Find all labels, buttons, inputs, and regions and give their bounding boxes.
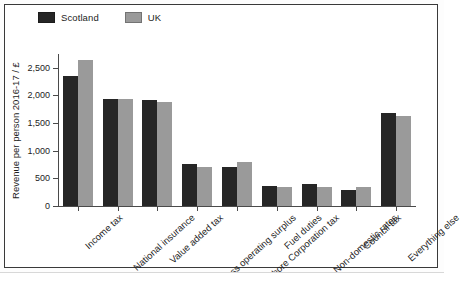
- y-axis-tick-label: 500: [35, 173, 50, 183]
- y-axis-title: Revenue per person 2016-17 / £: [8, 54, 22, 206]
- y-axis-tick-label: 1,000: [27, 146, 50, 156]
- bar-group: [217, 54, 257, 206]
- bar-group: [138, 54, 178, 206]
- bar-uk: [396, 116, 411, 206]
- bar-group: [376, 54, 416, 206]
- bar-uk: [237, 162, 252, 206]
- bar-groups: [58, 54, 416, 206]
- bar-uk: [78, 60, 93, 206]
- legend-item-uk: UK: [125, 12, 161, 23]
- bar-uk: [197, 167, 212, 206]
- y-axis-tick-label: 1,500: [27, 118, 50, 128]
- x-axis-line: [58, 206, 416, 207]
- legend-label-uk: UK: [148, 12, 161, 23]
- bar-scotland: [262, 186, 277, 206]
- y-axis-tick-label: 2,500: [27, 63, 50, 73]
- bar-uk: [157, 102, 172, 206]
- legend-label-scotland: Scotland: [61, 12, 99, 23]
- y-axis-title-text: Revenue per person 2016-17 / £: [10, 62, 21, 199]
- bar-uk: [277, 187, 292, 206]
- plot-area: 05001,0001,5002,0002,500: [58, 54, 416, 206]
- y-axis-tick-label: 2,000: [27, 90, 50, 100]
- bar-scotland: [302, 184, 317, 206]
- bar-group: [177, 54, 217, 206]
- bar-scotland: [341, 190, 356, 206]
- bar-group: [257, 54, 297, 206]
- x-axis-label: Council tax: [361, 212, 403, 252]
- chart-legend: Scotland UK: [38, 12, 161, 23]
- x-axis-label: Income tax: [83, 212, 125, 251]
- legend-swatch-scotland: [38, 12, 55, 23]
- bar-group: [297, 54, 337, 206]
- bar-scotland: [142, 100, 157, 206]
- bar-scotland: [103, 99, 118, 206]
- bar-scotland: [381, 113, 396, 206]
- bar-uk: [317, 187, 332, 206]
- legend-swatch-uk: [125, 12, 142, 23]
- bar-scotland: [182, 164, 197, 206]
- bar-scotland: [63, 76, 78, 206]
- bar-group: [336, 54, 376, 206]
- bar-uk: [118, 99, 133, 206]
- bar-scotland: [222, 167, 237, 206]
- y-axis-tick-label: 0: [45, 201, 50, 211]
- legend-item-scotland: Scotland: [38, 12, 99, 23]
- bar-group: [58, 54, 98, 206]
- page-bottom-strip: [0, 272, 444, 304]
- bar-uk: [356, 187, 371, 206]
- x-axis-labels: Income taxNational insuranceValue added …: [58, 208, 416, 270]
- bar-group: [98, 54, 138, 206]
